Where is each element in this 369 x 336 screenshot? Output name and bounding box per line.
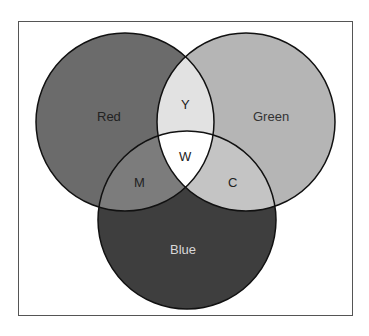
green-label: Green (253, 109, 289, 124)
w-label: W (179, 149, 192, 164)
blue-label: Blue (170, 242, 196, 257)
m-label: M (134, 175, 145, 190)
c-label: C (228, 175, 237, 190)
venn-diagram: Red Green Blue Y M C W (0, 0, 369, 336)
y-label: Y (181, 97, 190, 112)
red-label: Red (97, 109, 121, 124)
